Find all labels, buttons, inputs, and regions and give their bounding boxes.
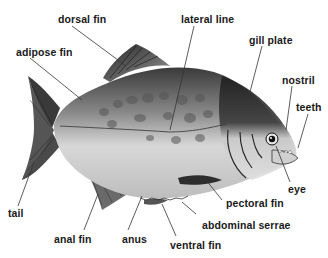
label-dorsal-fin: dorsal fin xyxy=(58,14,106,25)
label-ventral-fin: ventral fin xyxy=(170,240,221,251)
label-adipose-fin: adipose fin xyxy=(16,47,73,58)
eye-shape xyxy=(266,133,278,145)
leader-gill-plate xyxy=(250,46,262,92)
leader-anal-fin xyxy=(84,194,98,230)
label-eye: eye xyxy=(288,184,306,195)
leader-abdominal-serrae xyxy=(182,202,196,214)
label-nostril: nostril xyxy=(282,75,315,86)
leader-tail xyxy=(18,162,34,206)
label-lateral-line: lateral line xyxy=(181,14,234,25)
label-anal-fin: anal fin xyxy=(54,234,92,245)
label-pectoral-fin: pectoral fin xyxy=(226,198,284,209)
label-abdominal-serrae: abdominal serrae xyxy=(202,220,291,231)
leader-dorsal-fin xyxy=(72,26,126,66)
leader-ventral-fin xyxy=(162,204,176,236)
piranha-anatomy-diagram: dorsal fin lateral line gill plate adipo… xyxy=(0,0,328,258)
leader-nostril xyxy=(286,86,292,130)
label-gill-plate: gill plate xyxy=(249,35,293,46)
leader-anus xyxy=(128,196,142,230)
leader-teeth xyxy=(298,114,308,148)
label-tail: tail xyxy=(8,208,24,219)
label-anus: anus xyxy=(122,234,147,245)
label-teeth: teeth xyxy=(296,102,322,113)
